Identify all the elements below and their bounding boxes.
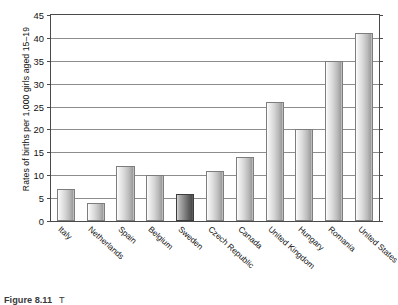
- bar-slot: [349, 15, 379, 221]
- y-tick-right: [379, 61, 383, 62]
- y-tick-label: 30: [34, 78, 44, 89]
- figure-caption: Figure 8.11T: [4, 295, 65, 305]
- y-tick-label: 25: [34, 101, 44, 112]
- bar-series: [51, 15, 379, 221]
- x-label-slot: Hungary: [290, 224, 320, 286]
- y-tick-right: [379, 107, 383, 108]
- x-label-slot: Romania: [320, 224, 350, 286]
- x-axis-labels: ItalyNetherlandsSpainBelgiumSwedenCzech …: [50, 224, 380, 286]
- y-tick-label: 5: [39, 193, 44, 204]
- bar: [176, 194, 194, 221]
- y-tick-right: [379, 198, 383, 199]
- plot-area: 051015202530354045: [50, 14, 380, 222]
- bar-slot: [81, 15, 111, 221]
- x-label-slot: Spain: [110, 224, 140, 286]
- x-label-slot: Sweden: [170, 224, 200, 286]
- y-tick-right: [379, 175, 383, 176]
- x-label-slot: United Kingdom: [260, 224, 290, 286]
- bar-slot: [200, 15, 230, 221]
- y-tick-label: 45: [34, 10, 44, 21]
- y-tick-label: 10: [34, 170, 44, 181]
- bar-slot: [140, 15, 170, 221]
- bar: [57, 189, 75, 221]
- y-tick-right: [379, 221, 383, 222]
- y-tick-right: [379, 152, 383, 153]
- bar-slot: [260, 15, 290, 221]
- caption-number: Figure 8.11: [4, 295, 52, 305]
- bar: [325, 61, 343, 221]
- x-label-slot: Netherlands: [80, 224, 110, 286]
- bar-slot: [230, 15, 260, 221]
- x-tick-label: United States: [356, 224, 398, 265]
- y-tick-right: [379, 84, 383, 85]
- x-tick-label: Spain: [116, 224, 138, 246]
- y-tick-left: [47, 221, 51, 222]
- y-tick-right: [379, 38, 383, 39]
- bar: [266, 102, 284, 221]
- bar: [236, 157, 254, 221]
- x-tick-label: Italy: [56, 224, 74, 242]
- y-tick-label: 35: [34, 55, 44, 66]
- y-tick-label: 0: [39, 216, 44, 227]
- y-tick-right: [379, 129, 383, 130]
- y-tick-right: [379, 15, 383, 16]
- bar: [146, 175, 164, 221]
- bar: [206, 171, 224, 221]
- bar: [116, 166, 134, 221]
- x-label-slot: Canada: [230, 224, 260, 286]
- bar-slot: [170, 15, 200, 221]
- bar: [355, 33, 373, 221]
- bar-slot: [319, 15, 349, 221]
- x-label-slot: Italy: [50, 224, 80, 286]
- bar-slot: [290, 15, 320, 221]
- caption-text: T: [59, 295, 65, 305]
- x-label-slot: Belgium: [140, 224, 170, 286]
- y-axis-title: Rates of births per 1,000 girls aged 15–…: [21, 0, 31, 221]
- x-label-slot: United States: [350, 224, 380, 286]
- bar-slot: [51, 15, 81, 221]
- bar-slot: [111, 15, 141, 221]
- x-label-slot: Czech Republic: [200, 224, 230, 286]
- bar: [295, 129, 313, 221]
- bar: [87, 203, 105, 221]
- y-tick-label: 20: [34, 124, 44, 135]
- y-tick-label: 40: [34, 32, 44, 43]
- y-tick-label: 15: [34, 147, 44, 158]
